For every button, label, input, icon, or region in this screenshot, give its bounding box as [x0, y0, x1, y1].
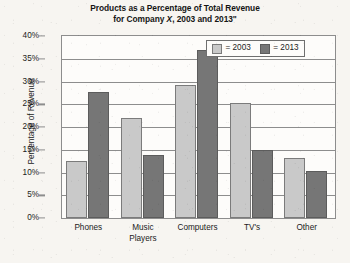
y-tick-mark: [39, 58, 45, 59]
y-tick-label: 5%: [0, 191, 39, 199]
y-tick-mark: [39, 149, 45, 150]
y-tick-mark: [39, 104, 45, 105]
y-tick-mark: [39, 81, 45, 82]
y-tick-label: 40%: [0, 32, 39, 40]
bar-music-players-2003: [121, 118, 142, 218]
legend-entry-2003: = 2003: [212, 44, 251, 54]
y-tick-label: 35%: [0, 55, 39, 63]
bar-group: [62, 36, 117, 218]
bar-computers-2003: [175, 85, 196, 218]
bar-series-container: [62, 36, 335, 218]
bar-music-players-2013: [143, 155, 164, 218]
bar-other-2013: [306, 171, 327, 218]
bar-group: [171, 36, 226, 218]
y-tick-label: 30%: [0, 77, 39, 85]
y-tick-mark: [39, 195, 45, 196]
chart-title-line-2-suffix: , 2003 and 2013": [172, 14, 237, 24]
legend-swatch-2003-icon: [212, 44, 222, 54]
bar-phones-2013: [88, 92, 109, 218]
y-tick-label: 20%: [0, 123, 39, 131]
plot-area: 0%5%10%15%20%25%30%35%40%: [61, 35, 336, 219]
chart-title: Products as a Percentage of Total Revenu…: [28, 3, 322, 26]
bar-tv-s-2013: [252, 150, 273, 218]
legend-swatch-2013-icon: [260, 44, 270, 54]
y-tick-label: 10%: [0, 168, 39, 176]
y-tick-mark: [39, 172, 45, 173]
y-tick-mark: [39, 35, 45, 36]
chart-title-line-1: Products as a Percentage of Total Revenu…: [90, 3, 260, 13]
bar-group: [117, 36, 172, 218]
legend-label-2003: = 2003: [226, 44, 251, 52]
chart-legend: = 2003 = 2013: [206, 40, 305, 57]
y-tick-label: 15%: [0, 146, 39, 154]
y-tick-mark: [39, 126, 45, 127]
bar-group: [280, 36, 335, 218]
bar-other-2003: [284, 158, 305, 219]
y-tick-mark: [39, 217, 45, 218]
y-tick-label: 0%: [0, 214, 39, 222]
bar-phones-2003: [66, 161, 87, 218]
bar-computers-2013: [197, 50, 218, 218]
bar-chart-figure: Products as a Percentage of Total Revenu…: [0, 0, 350, 263]
bar-tv-s-2003: [230, 103, 251, 218]
x-tick-label-other: Other: [270, 223, 344, 234]
legend-label-2013: = 2013: [273, 44, 298, 52]
bar-group: [226, 36, 281, 218]
y-tick-label: 25%: [0, 100, 39, 108]
chart-title-line-2-prefix: for Company: [113, 14, 166, 24]
legend-entry-2013: = 2013: [260, 44, 299, 54]
